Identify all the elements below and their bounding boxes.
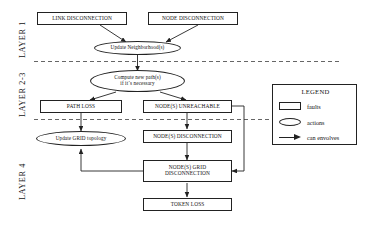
- legend: LEGEND faults actions can envolves: [272, 84, 357, 145]
- node-nodes-grid-disconnection[interactable]: NODE(S) GRID DISCONNECTION: [143, 160, 232, 182]
- diagram-canvas: LAYER 1 LAYER 2-3 LAYER 4 LINK DISCONNEC…: [0, 0, 373, 226]
- edge-compute-to-path-loss: [90, 92, 116, 100]
- arrow-head: [294, 134, 301, 140]
- node-link-disconnection[interactable]: LINK DISCONNECTION: [37, 12, 127, 25]
- node-nodes-grid-disconnection-line2: DISCONNECTION: [165, 171, 210, 177]
- legend-item-actions-label: actions: [307, 119, 325, 126]
- node-update-neighborhoods[interactable]: Update Neighborhood(s): [94, 41, 181, 55]
- edge-compute-to-nodes-unreachable: [160, 92, 186, 100]
- node-update-grid-topology[interactable]: Update GRID topology: [36, 131, 126, 146]
- legend-item-can-envolves-label: can envolves: [307, 134, 339, 141]
- layer-label-2-3: LAYER 2-3: [18, 72, 27, 117]
- node-token-loss[interactable]: TOKEN LOSS: [143, 198, 232, 211]
- node-compute-new-paths-line2: if it´s necessary: [120, 81, 154, 87]
- ellipse-icon: [279, 118, 301, 126]
- node-compute-new-paths[interactable]: Compute new path(s) if it´s necessary: [90, 70, 185, 92]
- legend-item-faults: faults: [279, 100, 354, 112]
- edge-unreachable-right-to-grid-disconnection: [232, 106, 244, 171]
- legend-title: LEGEND: [273, 88, 358, 95]
- edge-grid-disconnection-to-update-grid: [81, 149, 143, 171]
- layer-label-1: LAYER 1: [18, 21, 27, 58]
- legend-item-actions: actions: [279, 116, 354, 128]
- arrow-icon: [279, 133, 301, 141]
- layer-label-4: LAYER 4: [18, 163, 27, 200]
- edge-link-to-update-neighborhoods: [100, 25, 126, 42]
- node-node-disconnection[interactable]: NODE DISCONNECTION: [148, 12, 238, 25]
- edge-node-to-update-neighborhoods: [166, 25, 198, 42]
- node-path-loss[interactable]: PATH LOSS: [40, 100, 122, 113]
- node-nodes-unreachable[interactable]: NODE(S) UNREACHABLE: [143, 100, 232, 113]
- rectangle-icon: [279, 102, 301, 110]
- legend-item-faults-label: faults: [307, 103, 321, 110]
- legend-item-can-envolves: can envolves: [279, 131, 354, 143]
- node-nodes-disconnection[interactable]: NODE(S) DISCONNECTION: [143, 130, 232, 143]
